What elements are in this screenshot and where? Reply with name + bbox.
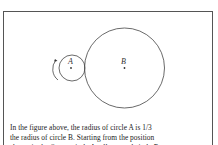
caption-line-3: shown in the figure, circle A rolls arou… <box>10 143 215 145</box>
caption-line-2: the radius of circle B. Starting from th… <box>10 133 215 142</box>
circle-a-label: A <box>67 57 73 66</box>
circle-b-label: B <box>121 57 126 66</box>
counterclockwise-arrow-icon <box>53 59 58 80</box>
circle-b-center <box>124 67 126 69</box>
circle-a-center <box>70 67 72 69</box>
caption-line-1: In the figure above, the radius of circl… <box>10 123 215 132</box>
